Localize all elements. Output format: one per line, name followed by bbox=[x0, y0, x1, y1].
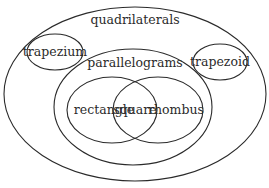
label-trapezoid: trapezoid bbox=[190, 54, 250, 69]
quadrilaterals-venn-diagram: quadrilaterals trapezium trapezoid paral… bbox=[0, 0, 269, 188]
label-trapezium: trapezium bbox=[23, 44, 87, 59]
label-parallelograms: parallelograms bbox=[87, 55, 183, 70]
set-quadrilaterals-ellipse bbox=[4, 7, 266, 181]
diagram-svg: quadrilaterals trapezium trapezoid paral… bbox=[0, 0, 269, 188]
label-square: square bbox=[113, 102, 156, 117]
label-quadrilaterals: quadrilaterals bbox=[90, 12, 179, 27]
